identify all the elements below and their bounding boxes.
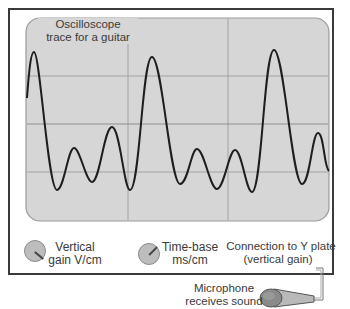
vertical-gain-dial-icon[interactable] bbox=[24, 240, 46, 262]
microphone-line-2: receives sound bbox=[184, 295, 264, 308]
connection-line-2: (vertical gain) bbox=[224, 253, 338, 266]
dial-needle bbox=[35, 251, 44, 259]
microphone-label: Microphone receives sound bbox=[184, 282, 264, 308]
vertical-gain-label: Vertical gain V/cm bbox=[46, 241, 104, 267]
microphone-line-1: Microphone bbox=[184, 282, 264, 295]
trace-title-line-2: trace for a guitar bbox=[38, 31, 138, 44]
vertical-gain-line-2: gain V/cm bbox=[46, 254, 104, 267]
dial-needle bbox=[148, 246, 157, 255]
time-base-label: Time-base ms/cm bbox=[160, 241, 220, 267]
microphone-cable bbox=[314, 268, 323, 300]
trace-title-line-1: Oscilloscope bbox=[38, 18, 138, 31]
connection-label: Connection to Y plate (vertical gain) bbox=[224, 240, 338, 266]
time-base-dial-icon[interactable] bbox=[138, 243, 160, 265]
time-base-line-2: ms/cm bbox=[160, 254, 220, 267]
oscilloscope-screen bbox=[26, 18, 329, 221]
trace-title: Oscilloscope trace for a guitar bbox=[38, 18, 138, 44]
connection-line-1: Connection to Y plate bbox=[224, 240, 338, 253]
microphone-icon bbox=[260, 289, 314, 307]
